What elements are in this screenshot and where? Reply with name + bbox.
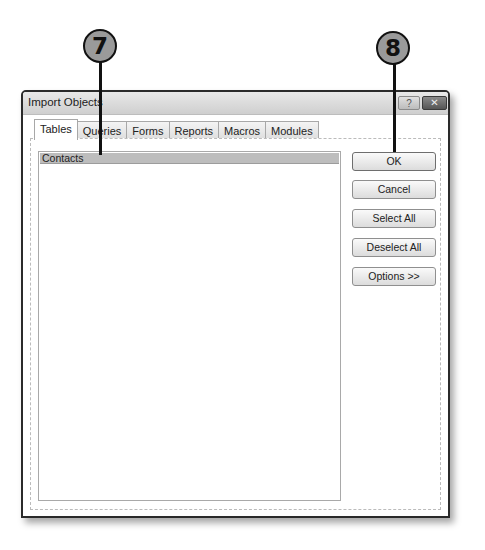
tab-macros[interactable]: Macros [218,121,266,139]
callout-7-pointer [99,62,102,155]
object-type-tabs: Tables Queries Forms Reports Macros Modu… [34,119,318,139]
tab-forms[interactable]: Forms [126,121,169,139]
callout-8-pointer [393,64,396,152]
tab-queries[interactable]: Queries [77,121,128,139]
cancel-button[interactable]: Cancel [352,180,436,199]
help-icon: ? [406,98,412,109]
callout-8: 8 [376,31,410,65]
title-bar[interactable]: Import Objects ? ✕ [23,92,448,115]
list-item-contacts[interactable]: Contacts [40,153,339,164]
tab-reports[interactable]: Reports [169,121,220,139]
tab-panel: Contacts OK Cancel Select All Deselect A… [30,138,441,510]
tab-tables[interactable]: Tables [34,119,78,140]
callout-7: 7 [83,29,117,63]
close-icon: ✕ [430,97,438,108]
ok-button[interactable]: OK [352,152,436,171]
dialog-title: Import Objects [28,96,103,108]
tab-modules[interactable]: Modules [265,121,319,139]
help-button[interactable]: ? [398,96,420,110]
import-objects-dialog: Import Objects ? ✕ Tables Queries Forms … [21,90,450,518]
close-button[interactable]: ✕ [422,96,447,110]
callout-7-number: 7 [92,33,108,59]
objects-listbox[interactable]: Contacts [38,151,341,501]
select-all-button[interactable]: Select All [352,209,436,228]
deselect-all-button[interactable]: Deselect All [352,238,436,257]
options-button[interactable]: Options >> [352,267,436,286]
callout-8-number: 8 [385,35,401,61]
